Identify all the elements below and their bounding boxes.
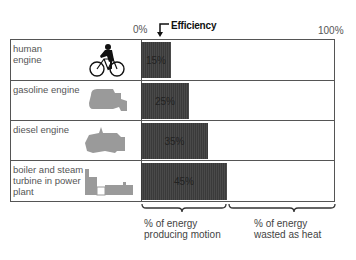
- bar-value: 15%: [146, 55, 166, 66]
- row-diesel-engine: diesel engine 35%: [11, 121, 334, 161]
- heat-label: % of energy wasted as heat: [254, 218, 321, 240]
- bar-human-engine: 15%: [141, 42, 171, 78]
- diesel-engine-icon: [81, 125, 131, 157]
- row-label: gasoline engine: [13, 84, 88, 95]
- axis-min-label: 0%: [133, 24, 147, 35]
- row-label: boiler and steam turbine in power plant: [13, 164, 85, 197]
- row-power-plant: boiler and steam turbine in power plant …: [11, 161, 334, 202]
- bar-value: 35%: [164, 136, 184, 147]
- motion-label-line2: producing motion: [144, 229, 221, 240]
- heat-label-line1: % of energy: [254, 218, 321, 229]
- efficiency-title: Efficiency: [171, 20, 216, 31]
- bar-value: 45%: [174, 176, 194, 187]
- efficiency-table: human engine 15% gasoline engine 25% die…: [10, 39, 335, 202]
- bar-value: 25%: [155, 96, 175, 107]
- row-label: diesel engine: [13, 124, 88, 135]
- motion-label: % of energy producing motion: [144, 218, 221, 240]
- heat-brace-icon: [229, 204, 335, 212]
- bar-power-plant: 45%: [141, 163, 227, 200]
- row-human-engine: human engine 15%: [11, 40, 334, 81]
- row-gasoline-engine: gasoline engine 25%: [11, 81, 334, 121]
- motion-brace-icon: [142, 204, 226, 212]
- axis-max-label: 100%: [318, 25, 344, 36]
- braces: [140, 203, 340, 215]
- row-label: human engine: [13, 43, 58, 65]
- efficiency-arrow-icon: [155, 22, 171, 38]
- gasoline-engine-icon: [87, 87, 129, 115]
- power-plant-icon: [83, 167, 135, 197]
- bar-diesel-engine: 35%: [141, 123, 208, 159]
- bar-gasoline-engine: 25%: [141, 83, 189, 119]
- bicycle-icon: [89, 44, 125, 78]
- motion-label-line1: % of energy: [144, 218, 221, 229]
- heat-label-line2: wasted as heat: [254, 229, 321, 240]
